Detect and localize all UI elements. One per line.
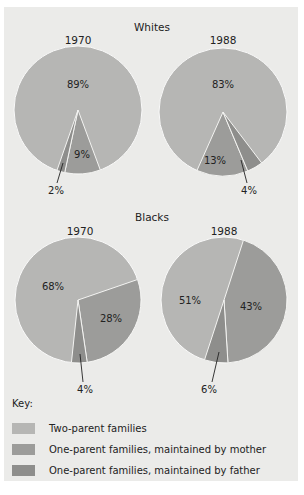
pie-year-title: 1970 [67,225,94,237]
legend-swatch-father [12,465,35,476]
pie-value-label: 2% [48,185,64,196]
legend-swatch-two-parent [12,423,35,434]
pie-value-label: 28% [100,313,122,324]
pie-chart [15,237,141,363]
pie-year-title: 1988 [210,34,237,46]
legend-item-two-parent: Two-parent families [12,418,298,439]
pie-value-label: 9% [74,149,90,160]
pie-value-label: 4% [241,185,257,196]
legend-item-mother: One-parent families, maintained by mothe… [12,439,298,460]
pie-value-label: 13% [204,155,226,166]
pie-value-label: 6% [201,384,217,395]
pie-value-label: 68% [42,281,64,292]
pie-value-label: 43% [240,301,262,312]
pie-value-label: 51% [179,295,201,306]
legend-title: Key: [12,398,298,409]
pie-year-title: 1970 [65,34,92,46]
legend-label: Two-parent families [49,423,147,434]
pie-value-label: 4% [77,384,93,395]
legend-swatch-mother [12,444,35,455]
pie-year-title: 1988 [211,225,238,237]
pie-value-label: 89% [67,79,89,90]
legend-label: One-parent families, maintained by fathe… [49,465,260,476]
group-title: Blacks [135,211,169,223]
pie-value-label: 83% [212,79,234,90]
legend-label: One-parent families, maintained by mothe… [49,444,266,455]
group-title: Whites [134,21,170,33]
legend: Key: Two-parent families One-parent fami… [12,398,298,481]
legend-item-father: One-parent families, maintained by fathe… [12,460,298,481]
